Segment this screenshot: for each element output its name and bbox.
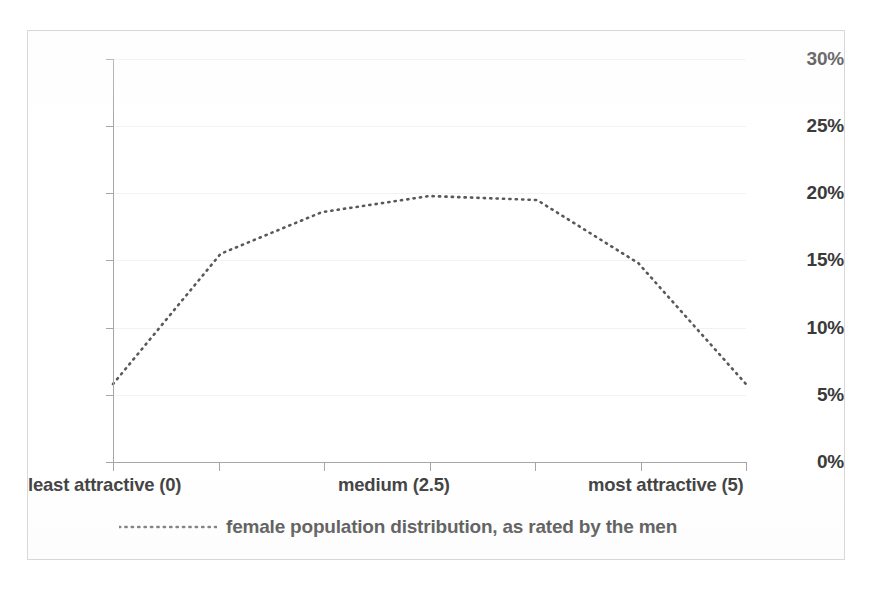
x-tick-1 [219,463,220,471]
y-axis-line [113,59,114,463]
y-axis-label-25: 25% [770,115,844,137]
y-axis-label-15: 15% [770,249,844,271]
x-tick-3 [430,463,431,471]
legend-dotted-line-icon [119,524,217,530]
x-axis-label-least-attractive: least attractive (0) [28,474,181,496]
x-tick-4 [535,463,536,471]
chart-legend: female population distribution, as rated… [119,516,677,538]
chart-container: 30% 25% 20% 15% 10% 5% 0% least attracti… [27,30,845,560]
y-tick-10 [106,328,114,329]
x-axis-label-medium: medium (2.5) [338,474,450,496]
x-tick-0 [113,463,114,471]
plot-area [113,59,746,462]
x-tick-2 [324,463,325,471]
x-tick-5 [641,463,642,471]
y-tick-25 [106,126,114,127]
y-axis-label-0: 0% [770,451,844,473]
y-axis-label-5: 5% [770,384,844,406]
y-axis-label-20: 20% [770,182,844,204]
legend-label-female-population-distribution: female population distribution, as rated… [226,516,677,538]
y-axis-label-10: 10% [770,317,844,339]
y-tick-5 [106,395,114,396]
y-tick-20 [106,193,114,194]
y-axis-label-30: 30% [770,48,844,70]
series-line-female-population-distribution [113,59,746,462]
y-tick-15 [106,260,114,261]
x-tick-6 [746,463,747,471]
x-axis-label-most-attractive: most attractive (5) [588,474,744,496]
y-tick-30 [106,59,114,60]
